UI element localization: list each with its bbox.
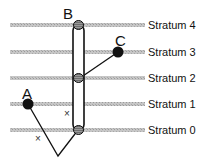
- pillar-b-knob-bottom: [74, 126, 84, 135]
- pillar-b-knob-middle: [74, 74, 84, 83]
- stratum-label-3: Stratum 3: [148, 46, 196, 58]
- pillar-b: [73, 21, 84, 135]
- pillar-b-knob-top: [74, 21, 84, 30]
- node-a-label: A: [22, 86, 32, 101]
- path-c-to-b: [80, 52, 118, 78]
- stratum-label-1: Stratum 1: [148, 98, 196, 110]
- x-marker-2: ×: [35, 133, 41, 144]
- node-c-label: C: [115, 33, 126, 48]
- stratum-label-4: Stratum 4: [148, 19, 196, 31]
- stratum-label-0: Stratum 0: [148, 124, 196, 136]
- node-b-label: B: [63, 6, 73, 21]
- x-marker-1: ×: [64, 108, 70, 119]
- stratum-label-2: Stratum 2: [148, 72, 196, 84]
